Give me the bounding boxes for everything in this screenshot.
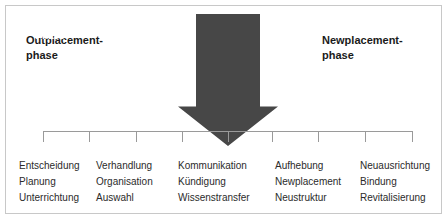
list-item: Wissenstransfer [178, 190, 250, 206]
timeline-axis [43, 131, 412, 132]
axis-tick-2 [136, 131, 137, 142]
list-item: Verhandlung [96, 158, 153, 174]
axis-tick-3 [182, 131, 183, 142]
item-column-entscheidung: EntscheidungPlanungUnterrichtung [19, 158, 80, 206]
list-item: Unterrichtung [19, 190, 80, 206]
list-item: Kommunikation [178, 158, 250, 174]
axis-tick-4 [228, 131, 229, 142]
list-item: Organisation [96, 174, 153, 190]
phase-heading-newplacement-line1: Newplacement- [322, 33, 403, 48]
list-item: Auswahl [96, 190, 153, 206]
list-item: Kündigung [178, 174, 250, 190]
arrow-label-kuendigungsphase: Kündigungs- Phase [0, 16, 100, 42]
item-column-neuausrichtung: NeuausrichtungBindungRevitalisierung [360, 158, 430, 206]
axis-tick-0 [43, 131, 44, 142]
list-item: Aufhebung [275, 158, 341, 174]
list-item: Neustruktur [275, 190, 341, 206]
phase-heading-newplacement: Newplacement- phase [322, 33, 403, 63]
axis-tick-6 [318, 131, 319, 142]
list-item: Bindung [360, 174, 430, 190]
axis-tick-8 [412, 131, 413, 142]
axis-tick-1 [89, 131, 90, 142]
diagram-canvas: Outplacement- phase Newplacement- phase … [0, 0, 448, 220]
list-item: Neuausrichtung [360, 158, 430, 174]
arrow-label-line1: Kündigungs- [0, 16, 100, 29]
item-column-kommunikation: KommunikationKündigungWissenstransfer [178, 158, 250, 206]
phase-heading-newplacement-line2: phase [322, 48, 403, 63]
arrow-label-line2: Phase [0, 29, 100, 42]
list-item: Planung [19, 174, 80, 190]
list-item: Revitalisierung [360, 190, 430, 206]
phase-heading-outplacement-line2: phase [26, 48, 103, 63]
item-column-verhandlung: VerhandlungOrganisationAuswahl [96, 158, 153, 206]
axis-tick-5 [272, 131, 273, 142]
axis-tick-7 [365, 131, 366, 142]
list-item: Newplacement [275, 174, 341, 190]
item-column-aufhebung: AufhebungNewplacementNeustruktur [275, 158, 341, 206]
list-item: Entscheidung [19, 158, 80, 174]
